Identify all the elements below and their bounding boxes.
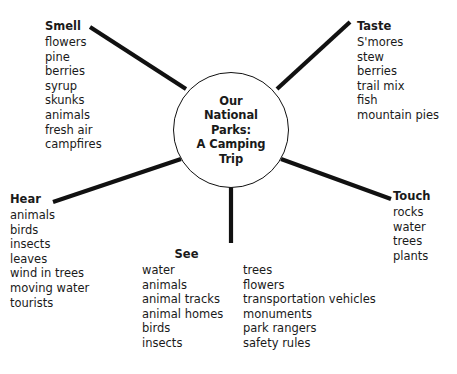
list-item: mountain pies [357,108,439,123]
list-item: water [142,263,243,278]
list-item: transportation vehicles [243,292,376,307]
list-item: animals [45,108,102,123]
list-item: trees [393,234,430,249]
node-taste: Taste S'mores stew berries trail mix fis… [357,19,439,123]
list-item: syrup [45,79,102,94]
spoke-line-taste [277,22,350,89]
list-item: fish [357,93,439,108]
list-item: berries [357,64,439,79]
list-item: flowers [45,35,102,50]
node-hear-heading: Hear [10,192,89,206]
list-item: water [393,220,430,235]
list-item: tourists [10,296,89,311]
list-item: safety rules [243,336,376,351]
list-item: campfires [45,137,102,152]
list-item: park rangers [243,321,376,336]
list-item: insects [142,336,243,351]
center-topic-line-5: Trip [219,152,243,167]
node-see-columns: water animals animal tracks animal homes… [142,263,376,351]
node-see-heading-wrapper: See [142,243,376,263]
node-touch: Touch rocks water trees plants [393,189,430,263]
list-item: animal homes [142,307,243,322]
list-item: trees [243,263,376,278]
node-smell-list: flowers pine berries syrup skunks animal… [45,35,102,152]
node-touch-list: rocks water trees plants [393,205,430,263]
list-item: pine [45,50,102,65]
node-see-list-column-2: trees flowers transportation vehicles mo… [243,263,376,351]
list-item: rocks [393,205,430,220]
node-touch-heading: Touch [393,189,430,203]
list-item: animals [10,208,89,223]
list-item: animal tracks [142,292,243,307]
node-taste-list: S'mores stew berries trail mix fish moun… [357,35,439,123]
node-see-heading: See [9,247,276,261]
list-item: fresh air [45,123,102,138]
node-smell-heading: Smell [45,19,102,33]
node-smell: Smell flowers pine berries syrup skunks … [45,19,102,152]
center-topic-line-1: Our [219,94,242,109]
node-taste-heading: Taste [357,19,439,33]
list-item: moving water [10,281,89,296]
list-item: birds [10,223,89,238]
list-item: trail mix [357,79,439,94]
node-see-list-column-1: water animals animal tracks animal homes… [142,263,243,351]
list-item: animals [142,278,243,293]
center-topic-circle: Our National Parks: A Camping Trip [173,72,289,188]
center-topic-line-3: Parks: [211,123,251,138]
spoke-line-touch [281,159,391,199]
list-item: berries [45,64,102,79]
list-item: monuments [243,307,376,322]
list-item: skunks [45,93,102,108]
sensory-web-diagram: Our National Parks: A Camping Trip Smell… [0,0,457,374]
spoke-line-smell [90,27,186,89]
list-item: flowers [243,278,376,293]
list-item: birds [142,321,243,336]
center-topic-line-4: A Camping [197,137,266,152]
list-item: plants [393,249,430,264]
list-item: S'mores [357,35,439,50]
node-see: See water animals animal tracks animal h… [142,243,376,351]
list-item: wind in trees [10,266,89,281]
list-item: stew [357,50,439,65]
center-topic-line-2: National [204,108,258,123]
